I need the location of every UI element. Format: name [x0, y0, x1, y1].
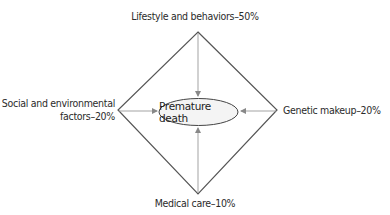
factor-label-lifestyle: Lifestyle and behaviors–50% [0, 10, 390, 23]
factor-label-social-line1: Social and environmental [2, 97, 115, 110]
factor-label-social: Social and environmental factors–20% [2, 97, 115, 123]
factor-label-genetic: Genetic makeup–20% [283, 104, 381, 117]
factor-label-medical: Medical care–10% [0, 197, 390, 210]
center-label: Premature death [159, 98, 239, 126]
factor-label-social-line2: factors–20% [2, 110, 115, 123]
